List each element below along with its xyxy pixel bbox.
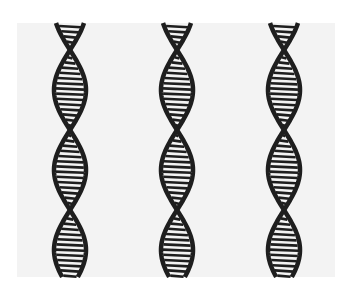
dna-helix [268, 23, 300, 277]
dna-helices-illustration [0, 0, 352, 295]
dna-helix [54, 23, 86, 277]
dna-helix [161, 23, 193, 277]
